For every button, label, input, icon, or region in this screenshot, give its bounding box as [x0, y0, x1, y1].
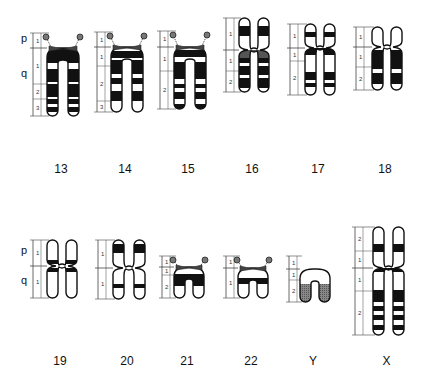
- chromosome-label-18: 18: [365, 162, 405, 176]
- svg-text:2: 2: [163, 87, 167, 93]
- svg-text:3: 3: [100, 104, 104, 110]
- svg-text:2: 2: [292, 288, 296, 294]
- svg-text:1: 1: [163, 36, 167, 42]
- svg-text:2: 2: [293, 75, 297, 81]
- svg-text:1: 1: [292, 272, 296, 278]
- chromosome-Y: 112: [286, 251, 335, 307]
- chromosome-19: 11: [30, 235, 82, 303]
- svg-text:1: 1: [358, 257, 362, 263]
- svg-text:1: 1: [229, 31, 233, 37]
- chromosome-18: 112: [353, 22, 407, 95]
- row1-p-arm-label: p: [21, 32, 27, 44]
- svg-text:1: 1: [359, 34, 363, 40]
- svg-text:1: 1: [229, 280, 233, 286]
- svg-text:1: 1: [36, 63, 40, 69]
- ideogram-canvas: 112311231121121121121111112111122112: [0, 0, 430, 390]
- chromosome-label-X: X: [367, 354, 407, 368]
- chromosome-label-17: 17: [298, 162, 338, 176]
- svg-text:1: 1: [100, 54, 104, 60]
- svg-text:2: 2: [358, 310, 362, 316]
- chromosome-15: 112: [157, 26, 211, 114]
- chromosome-ideogram-diagram: 112311231121121121121111112111122112 131…: [0, 0, 430, 390]
- svg-text:1: 1: [293, 33, 297, 39]
- svg-text:1: 1: [293, 52, 297, 58]
- chromosome-label-13: 13: [41, 162, 81, 176]
- svg-text:2: 2: [229, 79, 233, 85]
- svg-text:2: 2: [100, 81, 104, 87]
- chromosome-label-19: 19: [40, 354, 80, 368]
- svg-text:1: 1: [101, 281, 105, 287]
- chromosome-label-20: 20: [107, 354, 147, 368]
- chromosome-X: 2112: [352, 222, 409, 340]
- chromosome-17: 112: [287, 19, 340, 100]
- chromosome-20: 11: [95, 235, 150, 304]
- svg-text:1: 1: [36, 279, 40, 285]
- svg-text:1: 1: [358, 277, 362, 283]
- svg-text:2: 2: [358, 236, 362, 242]
- svg-text:1: 1: [229, 259, 233, 265]
- chromosome-label-21: 21: [167, 354, 207, 368]
- row2-p-arm-label: p: [21, 244, 27, 256]
- svg-text:2: 2: [36, 89, 40, 95]
- chromosome-13: 1123: [30, 28, 84, 121]
- svg-text:2: 2: [165, 284, 169, 290]
- svg-text:1: 1: [165, 259, 169, 265]
- row2-q-arm-label: q: [21, 274, 27, 286]
- chromosome-14: 1123: [94, 27, 148, 117]
- chromosome-label-22: 22: [231, 354, 271, 368]
- chromosome-label-16: 16: [232, 162, 272, 176]
- chromosome-label-Y: Y: [293, 354, 333, 368]
- chromosome-16: 112: [223, 13, 274, 97]
- svg-text:1: 1: [163, 56, 167, 62]
- svg-text:1: 1: [359, 54, 363, 60]
- chromosome-label-14: 14: [105, 162, 145, 176]
- chromosome-22: 11: [223, 251, 273, 303]
- svg-text:1: 1: [229, 58, 233, 64]
- svg-text:1: 1: [36, 250, 40, 256]
- svg-text:2: 2: [359, 76, 363, 82]
- svg-text:1: 1: [100, 37, 104, 43]
- svg-text:3: 3: [36, 105, 40, 111]
- chromosome-21: 112: [159, 251, 209, 303]
- svg-text:1: 1: [292, 260, 296, 266]
- row1-q-arm-label: q: [21, 67, 27, 79]
- svg-text:1: 1: [101, 251, 105, 257]
- svg-text:1: 1: [36, 38, 40, 44]
- svg-text:1: 1: [165, 268, 169, 274]
- chromosome-label-15: 15: [168, 162, 208, 176]
